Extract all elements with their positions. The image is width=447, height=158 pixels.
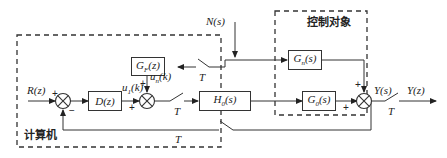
- hold-block-H0: H0(s): [199, 91, 251, 111]
- disturbance-block-Gn: Gn(s): [288, 50, 322, 70]
- sampler-label-forward: T: [174, 106, 180, 117]
- computer-region-label: 计算机: [24, 130, 57, 141]
- input-signal-R: R(z): [27, 85, 45, 96]
- disturbance-signal-N: N(s): [206, 16, 225, 27]
- sum1-plus-sign: +: [52, 89, 58, 99]
- signal-un: un(k): [150, 71, 171, 85]
- sum2-plus-top-sign: +: [140, 79, 146, 89]
- sum3-plus-top-sign: +: [355, 80, 361, 90]
- plant-block-G0: G0(s): [302, 91, 336, 111]
- output-signal-Yz: Y(z): [407, 85, 425, 96]
- sampler-label-disturbance: T: [199, 72, 205, 83]
- plant-region-label: 控制对象: [307, 17, 351, 28]
- sum1-minus-sign: −: [69, 106, 75, 116]
- sum3-plus-left-sign: +: [343, 103, 349, 113]
- controller-block-D: D(z): [88, 91, 122, 111]
- output-signal-Ys: Y(s): [374, 85, 392, 96]
- sampler-label-output: T: [388, 106, 394, 117]
- sampler-label-feedback: T: [175, 134, 181, 145]
- sum2-plus-left-sign: +: [129, 103, 135, 113]
